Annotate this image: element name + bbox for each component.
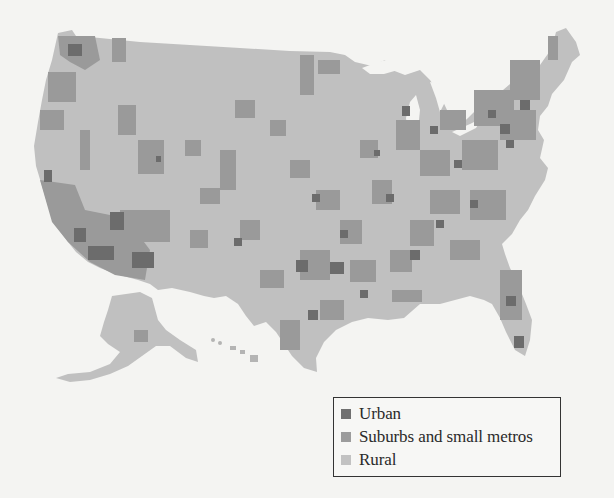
map-legend: Urban Suburbs and small metros Rural — [333, 397, 561, 477]
hawaii — [211, 338, 258, 362]
alaska — [56, 292, 198, 382]
lake-superior — [362, 58, 410, 74]
legend-item-urban: Urban — [341, 402, 560, 425]
alaska-suburban — [134, 330, 148, 342]
legend-item-suburbs: Suburbs and small metros — [341, 425, 560, 448]
urban-swatch-icon — [341, 409, 351, 419]
rural-swatch-icon — [341, 455, 351, 465]
legend-item-rural: Rural — [341, 448, 560, 471]
legend-label-rural: Rural — [359, 450, 396, 470]
legend-label-urban: Urban — [359, 404, 401, 424]
suburbs-swatch-icon — [341, 432, 351, 442]
legend-label-suburbs: Suburbs and small metros — [359, 427, 533, 447]
